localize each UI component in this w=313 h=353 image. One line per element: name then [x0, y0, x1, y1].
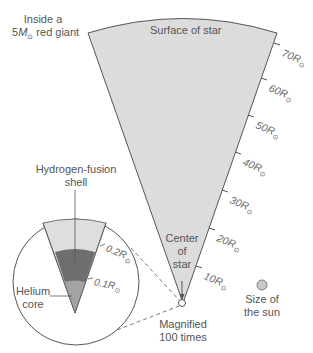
surface-label: Surface of star [150, 24, 222, 37]
magnified-label: Magnified 100 times [152, 318, 214, 344]
center-of-star-label: Center of star [160, 232, 204, 271]
title-label: Inside a 5M⊙ red giant [12, 13, 74, 43]
helium-core-label: Helium core [13, 285, 53, 311]
hydrogen-shell-label: Hydrogen-fusion shell [33, 163, 119, 189]
center-marker [179, 300, 186, 307]
sun-label: Size of the sun [240, 293, 284, 319]
sun-size-marker [257, 280, 267, 290]
